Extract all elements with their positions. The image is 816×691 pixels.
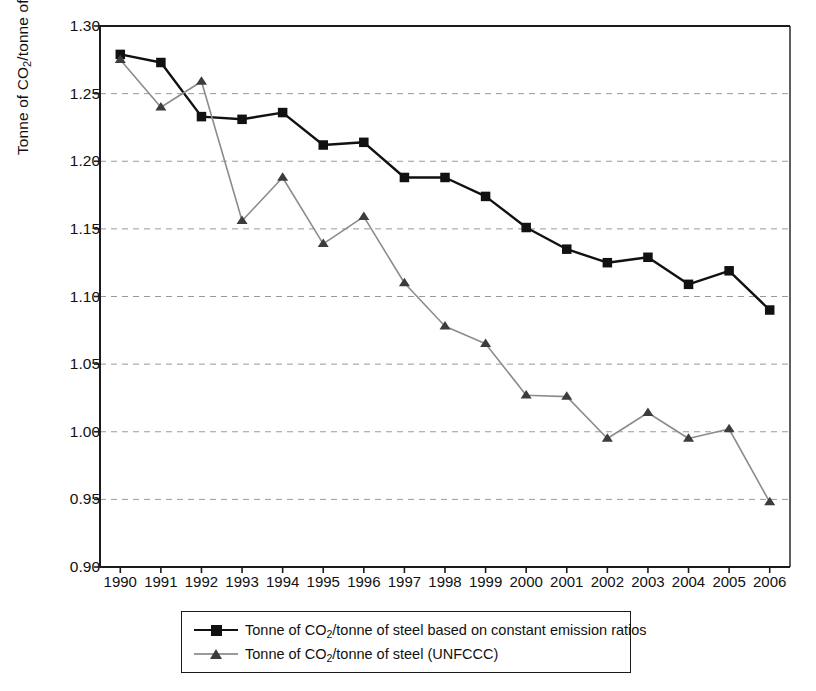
legend-label-1: Tonne of CO2/tonne of steel (UNFCCC) [245,646,498,662]
legend-swatch-square [194,623,238,637]
legend-item-constant-emission-ratios: Tonne of CO2/tonne of steel based on con… [194,618,620,642]
legend-item-unfccc: Tonne of CO2/tonne of steel (UNFCCC) [194,642,620,666]
series-layer [115,50,775,506]
series-constant-emission-ratios [116,50,775,315]
chart-legend: Tonne of CO2/tonne of steel based on con… [181,611,631,673]
series-unfccc [115,55,775,506]
legend-swatch-triangle [194,647,238,661]
chart-figure: Tonne of CO2/tonne of steel 0.900.951.00… [0,0,816,691]
legend-label-0: Tonne of CO2/tonne of steel based on con… [245,622,647,638]
plot-area [0,0,816,691]
